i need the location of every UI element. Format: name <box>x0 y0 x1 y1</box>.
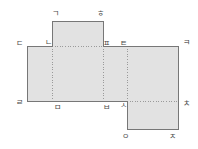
vertex-label-kieuk: ㅋ <box>183 39 190 47</box>
vertex-label-giyeok: ㄱ <box>52 10 59 18</box>
face-bottom-flap <box>127 101 178 129</box>
vertex-label-pieup2: ㅍ <box>103 40 110 48</box>
vertex-label-siot: ㅅ <box>120 102 127 110</box>
face-center-right <box>103 46 127 101</box>
vertex-label-tieut: ㅌ <box>120 40 127 48</box>
face-top-flap <box>52 21 103 46</box>
face-center-left <box>52 46 103 101</box>
vertex-label-jieut: ㅈ <box>169 133 176 141</box>
net-diagram-figure: ㄱㅎㄷㄴㅍㅌㅋㄹㅁㅂㅅㅊㅇㅈ <box>0 0 198 149</box>
vertex-label-nieun: ㄴ <box>45 39 52 47</box>
vertex-label-hieut: ㅎ <box>97 10 104 18</box>
face-left <box>27 46 52 101</box>
vertex-label-rieul: ㄹ <box>16 99 23 107</box>
vertex-label-ieung: ㅇ <box>122 133 129 141</box>
vertex-label-chieut: ㅊ <box>183 100 190 108</box>
face-right <box>127 46 178 101</box>
vertex-label-digeut: ㄷ <box>16 40 23 48</box>
vertex-label-bieup: ㅂ <box>103 104 110 112</box>
vertex-label-mieum: ㅁ <box>54 104 61 112</box>
net-diagram-canvas <box>0 0 198 149</box>
